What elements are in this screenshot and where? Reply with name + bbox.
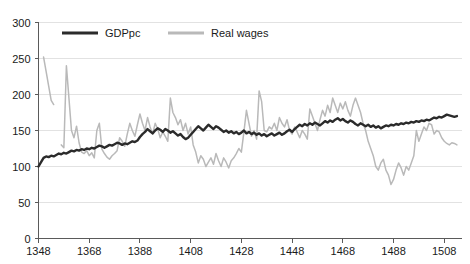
legend-label-real-wages: Real wages bbox=[211, 27, 269, 39]
x-tick-label-1388: 1388 bbox=[128, 245, 152, 257]
x-tick-labels-group: 134813681388140814281448146814881508 bbox=[26, 245, 456, 257]
x-tick-label-1408: 1408 bbox=[178, 245, 202, 257]
x-tick-label-1448: 1448 bbox=[280, 245, 304, 257]
y-tick-label-100: 100 bbox=[12, 161, 30, 173]
y-tick-label-150: 150 bbox=[12, 125, 30, 137]
line-chart: 050100150200250300 134813681388140814281… bbox=[0, 0, 470, 264]
y-tick-label-300: 300 bbox=[12, 17, 30, 29]
x-tick-label-1468: 1468 bbox=[331, 245, 355, 257]
x-tick-label-1368: 1368 bbox=[77, 245, 101, 257]
y-tick-label-0: 0 bbox=[24, 233, 30, 245]
y-tick-label-50: 50 bbox=[18, 197, 30, 209]
x-tick-label-1508: 1508 bbox=[432, 245, 456, 257]
y-tick-label-200: 200 bbox=[12, 89, 30, 101]
x-tick-label-1348: 1348 bbox=[26, 245, 50, 257]
legend-label-gdppc: GDPpc bbox=[105, 27, 141, 39]
x-tick-label-1488: 1488 bbox=[381, 245, 405, 257]
y-tick-label-250: 250 bbox=[12, 53, 30, 65]
chart-container: 050100150200250300 134813681388140814281… bbox=[0, 0, 470, 264]
x-tick-label-1428: 1428 bbox=[229, 245, 253, 257]
